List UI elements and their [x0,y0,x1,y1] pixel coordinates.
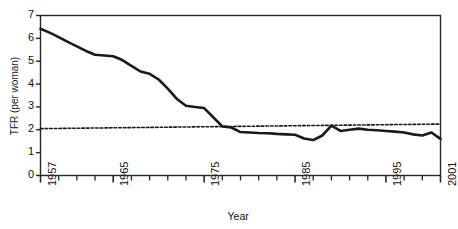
tfr-line [41,29,441,140]
replacement-level-line [41,124,441,129]
data-series-group [41,29,441,140]
plot-frame [41,16,441,176]
x-tick-marks [41,176,441,183]
